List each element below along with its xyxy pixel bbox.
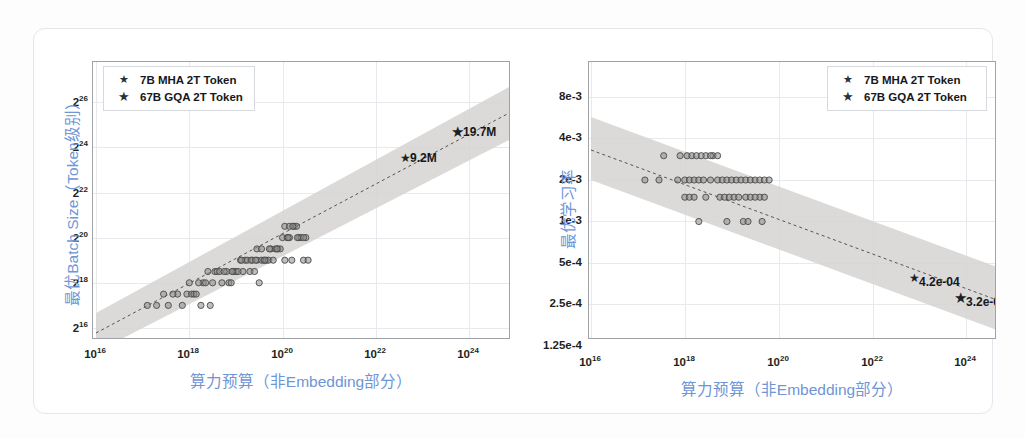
annotation-label: 3.2e-04 bbox=[966, 295, 996, 309]
legend-item-label: 7B MHA 2T Token bbox=[140, 74, 236, 86]
legend-item-label: 7B MHA 2T Token bbox=[864, 74, 960, 86]
ytick-5e-4: 5e-4 bbox=[526, 256, 582, 268]
star-small-icon: ★ bbox=[835, 74, 861, 85]
xtick-1e20: 1020 bbox=[271, 346, 293, 360]
legend-item-label: 67B GQA 2T Token bbox=[140, 91, 243, 103]
xtick-1e16: 1016 bbox=[579, 354, 601, 368]
annotation-4-2e-04: ★ 4.2e-04 bbox=[909, 267, 960, 289]
ytick-2p5e-4: 2.5e-4 bbox=[526, 297, 582, 309]
ytick-8e-3: 8e-3 bbox=[526, 90, 582, 102]
legend-item-67b-gqa[interactable]: ★ 67B GQA 2T Token bbox=[111, 88, 245, 105]
screenshot-root: · · · · · · · bbox=[0, 0, 1025, 438]
annotation-label: 9.2M bbox=[410, 151, 437, 165]
star-large-icon: ★ bbox=[835, 90, 861, 103]
y-axis-title: 最优学习率 bbox=[556, 169, 578, 249]
annotation-9-2m: ★ 9.2M bbox=[400, 151, 437, 165]
figure-card: ★ 7B MHA 2T Token ★ 67B GQA 2T Token ★ 9… bbox=[33, 28, 993, 414]
legend-item-label: 67B GQA 2T Token bbox=[864, 91, 967, 103]
x-axis-title: 算力预算（非Embedding部分） bbox=[190, 369, 412, 391]
legend-batch-size[interactable]: ★ 7B MHA 2T Token ★ 67B GQA 2T Token bbox=[103, 66, 255, 111]
star-large-icon: ★ bbox=[111, 90, 137, 103]
legend-item-67b-gqa[interactable]: ★ 67B GQA 2T Token bbox=[835, 88, 977, 105]
xtick-1e16: 1016 bbox=[84, 346, 106, 360]
ytick-4e-3: 4e-3 bbox=[526, 131, 582, 143]
xtick-1e18: 1018 bbox=[177, 346, 199, 360]
xtick-1e22: 1022 bbox=[861, 354, 883, 368]
annotation-label: 19.7M bbox=[463, 125, 496, 139]
cropped-text-above: · · · · · · · bbox=[40, 0, 97, 4]
chart-panel-learning-rate: ★ 7B MHA 2T Token ★ 67B GQA 2T Token ★ 4… bbox=[526, 29, 994, 415]
legend-item-7b-mha[interactable]: ★ 7B MHA 2T Token bbox=[835, 71, 977, 88]
xtick-1e22: 1022 bbox=[364, 346, 386, 360]
chart-panel-batch-size: ★ 7B MHA 2T Token ★ 67B GQA 2T Token ★ 9… bbox=[42, 29, 522, 415]
plot-area-batch-size: ★ 7B MHA 2T Token ★ 67B GQA 2T Token ★ 9… bbox=[92, 61, 510, 339]
annotation-19-7m: ★ 19.7M bbox=[451, 124, 496, 139]
ytick-2e16: 216 bbox=[52, 320, 88, 334]
plot-area-learning-rate: ★ 7B MHA 2T Token ★ 67B GQA 2T Token ★ 4… bbox=[588, 61, 996, 339]
xtick-1e18: 1018 bbox=[673, 354, 695, 368]
star-small-icon: ★ bbox=[111, 74, 137, 85]
x-axis-title: 算力预算（非Embedding部分） bbox=[681, 377, 903, 399]
annotation-3-2e-04: ★ 3.2e-04 bbox=[954, 285, 996, 309]
xtick-1e24: 1024 bbox=[457, 346, 479, 360]
xtick-1e24: 1024 bbox=[954, 354, 976, 368]
xtick-1e20: 1020 bbox=[767, 354, 789, 368]
legend-item-7b-mha[interactable]: ★ 7B MHA 2T Token bbox=[111, 71, 245, 88]
top-bleed-strip: · · · · · · · bbox=[0, 0, 1025, 7]
ytick-1p25e-4: 1.25e-4 bbox=[522, 339, 582, 351]
legend-learning-rate[interactable]: ★ 7B MHA 2T Token ★ 67B GQA 2T Token bbox=[827, 66, 987, 111]
y-axis-title: 最优Batch Size（Token级别） bbox=[60, 94, 82, 305]
